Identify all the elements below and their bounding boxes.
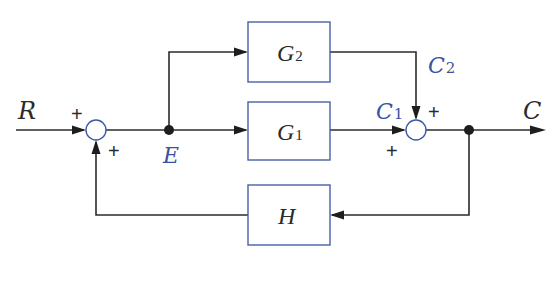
block-h-label: H <box>277 203 297 229</box>
sign-sum1-input: + <box>71 103 83 125</box>
arrow-head-icon <box>72 126 86 135</box>
arrow-head-icon <box>234 126 248 135</box>
arrow-head-icon <box>234 48 248 57</box>
summing-junction-1 <box>86 120 106 140</box>
branch-node-e <box>164 125 174 135</box>
arrow-head-icon <box>330 211 344 220</box>
sign-sum2-c2: + <box>428 101 440 123</box>
arrow-head-icon <box>530 126 546 135</box>
signal-label-c2: C2 <box>428 53 455 78</box>
summing-junction-2 <box>406 120 426 140</box>
sign-sum2-c1: + <box>386 140 398 162</box>
block-diagram: G2 G1 H R E C2 C1 C + + + + <box>0 0 552 284</box>
sign-sum1-feedback: + <box>108 140 120 162</box>
wire-e-to-g2 <box>169 52 246 130</box>
arrow-head-icon <box>412 106 421 120</box>
signal-label-e: E <box>162 143 179 168</box>
signal-label-c1: C1 <box>376 99 403 124</box>
signal-label-c: C <box>523 97 541 125</box>
arrow-head-icon <box>392 126 406 135</box>
wire-output-to-h <box>332 130 469 215</box>
signal-label-r: R <box>17 97 36 125</box>
branch-node-output <box>464 125 474 135</box>
diagram-canvas: G2 G1 H R E C2 C1 C + + + + <box>0 0 552 284</box>
arrow-head-icon <box>92 140 101 154</box>
